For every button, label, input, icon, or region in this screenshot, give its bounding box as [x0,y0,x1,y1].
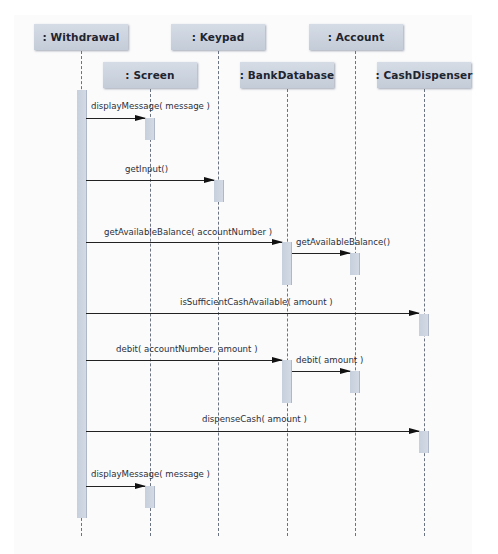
message-label-display-message-1: displayMessage( message ) [91,101,210,111]
activation-screen-2 [145,486,155,508]
activation-cashdispenser-1 [419,314,429,336]
activation-screen-1 [145,118,155,140]
object-account: : Account [309,24,403,50]
object-screen: : Screen [103,62,197,88]
activation-bankdatabase-2 [282,360,292,403]
arrowhead-icon [340,368,351,374]
activation-cashdispenser-2 [419,431,429,453]
canvas-margin [472,15,498,554]
message-arrow-get-available-balance-db [86,242,282,243]
message-label-is-sufficient-cash: isSufficientCashAvailable( amount ) [180,297,333,307]
activation-account-2 [350,371,360,393]
activation-account-1 [350,253,360,275]
activation-withdrawal [77,90,87,518]
object-withdrawal: : Withdrawal [34,24,128,50]
message-label-debit-account: debit( amount ) [296,355,363,365]
activation-keypad [214,180,224,202]
arrowhead-icon [272,357,283,363]
message-arrow-get-input [86,180,214,181]
arrowhead-icon [409,428,420,434]
arrowhead-icon [272,239,283,245]
lifeline-account [355,51,356,536]
message-label-get-available-balance-db: getAvailableBalance( accountNumber ) [104,227,272,237]
arrowhead-icon [204,177,215,183]
lifeline-cashdispenser [424,89,425,536]
message-arrow-get-available-balance-account [292,253,350,254]
message-label-dispense-cash: dispenseCash( amount ) [202,414,307,424]
message-label-debit-db: debit( accountNumber, amount ) [116,344,258,354]
message-arrow-dispense-cash [86,431,419,432]
arrowhead-icon [135,115,146,121]
message-label-get-input: getInput() [125,164,168,174]
arrowhead-icon [135,483,146,489]
message-label-display-message-2: displayMessage( message ) [91,469,210,479]
arrowhead-icon [340,250,351,256]
object-bankdatabase: : BankDatabase [240,62,334,88]
message-arrow-debit-account [292,371,350,372]
object-cashdispenser: : CashDispenser [377,62,471,88]
message-arrow-display-message-1 [86,118,145,119]
lifeline-keypad [218,51,219,536]
arrowhead-icon [409,310,420,316]
activation-bankdatabase-1 [282,242,292,285]
message-label-get-available-balance-account: getAvailableBalance() [296,237,390,247]
object-keypad: : Keypad [171,24,265,50]
message-arrow-display-message-2 [86,486,145,487]
message-arrow-debit-db [86,360,282,361]
message-arrow-is-sufficient-cash [86,313,419,314]
